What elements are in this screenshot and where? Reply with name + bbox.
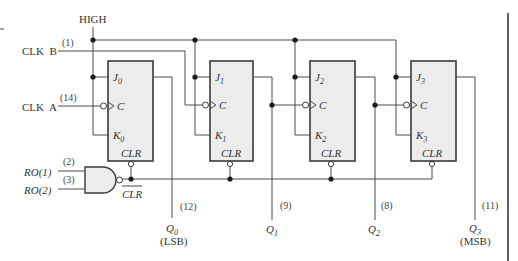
- q0-wire: [153, 77, 172, 218]
- flip-flop-3: J3 C K3 CLR: [404, 61, 457, 167]
- q3-msb-note: (MSB): [460, 235, 491, 248]
- c3-label: C: [420, 99, 428, 111]
- q3-wire: [456, 77, 475, 220]
- clk-a-pin: (14): [60, 92, 77, 104]
- high-label: HIGH: [79, 13, 107, 25]
- clk-a-label: CLK A: [22, 101, 57, 113]
- ro1-pin: (2): [63, 156, 75, 168]
- c2-label: C: [319, 99, 327, 111]
- ro2-label: RO(2): [23, 184, 52, 197]
- clr3-label: CLR: [422, 147, 442, 159]
- ro2-pin: (3): [63, 174, 75, 186]
- q0-pin: (12): [180, 201, 197, 213]
- clk-b-pin: (1): [62, 37, 74, 49]
- clr-bus: [123, 167, 432, 182]
- q3-pin: (11): [482, 200, 498, 212]
- q1-pin: (9): [280, 200, 292, 212]
- q2-wire: [355, 77, 375, 220]
- flip-flop-0: J0 C K0 CLR: [101, 61, 154, 167]
- counter-circuit-diagram: HIGH CLK B (1) CLK A (14) J0: [0, 0, 518, 261]
- clr1-label: CLR: [221, 147, 241, 159]
- clr-bar-label: CLR: [122, 188, 142, 200]
- ro1-label: RO(1): [23, 166, 52, 179]
- clr0-label: CLR: [121, 147, 141, 159]
- q2-label: Q2: [368, 223, 380, 238]
- q1-wire: [253, 77, 272, 220]
- clr2-label: CLR: [321, 147, 341, 159]
- c1-label: C: [219, 99, 227, 111]
- q2-pin: (8): [381, 200, 393, 212]
- flip-flop-2: J2 C K2 CLR: [303, 61, 356, 167]
- q1-label: Q1: [266, 223, 278, 238]
- flip-flop-1: J1 C K1 CLR: [203, 61, 254, 167]
- clk-b-label: CLK B: [22, 45, 57, 57]
- c0-label: C: [117, 100, 125, 112]
- q0-lsb-note: (LSB): [160, 235, 188, 248]
